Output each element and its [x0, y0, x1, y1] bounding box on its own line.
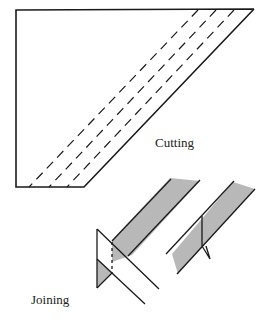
diagram-canvas [0, 0, 268, 321]
cutting-label: Cutting [155, 135, 194, 151]
cutting-dashed-lines [29, 10, 234, 187]
cutting-diagram [16, 9, 254, 187]
dashed-line-3 [67, 10, 234, 187]
fold-triangle-shade [97, 259, 112, 288]
dashed-line-2 [49, 10, 216, 187]
fabric-outline [16, 9, 254, 187]
dashed-line-1 [29, 10, 198, 187]
joining-label: Joining [31, 292, 69, 308]
joining-diagram [97, 178, 255, 304]
